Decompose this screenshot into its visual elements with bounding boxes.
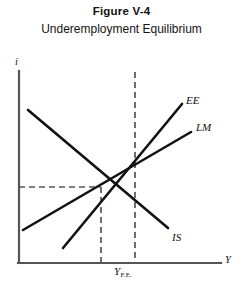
y-axis-label: i xyxy=(15,57,18,68)
is-curve xyxy=(28,110,168,228)
is-curve-label: IS xyxy=(172,232,181,243)
full-employment-output-subscript: F.E. xyxy=(120,271,132,279)
x-axis-label: Y xyxy=(225,255,231,266)
is-lm-ee-diagram xyxy=(0,0,243,290)
lm-curve-label: LM xyxy=(196,122,211,133)
figure-container: Figure V-4 Underemployment Equilibrium i… xyxy=(0,0,243,290)
full-employment-output-tick-label: YF.E. xyxy=(114,266,132,279)
diagram-canvas xyxy=(0,0,243,290)
ee-curve-label: EE xyxy=(186,95,199,106)
lm-curve xyxy=(23,132,191,230)
